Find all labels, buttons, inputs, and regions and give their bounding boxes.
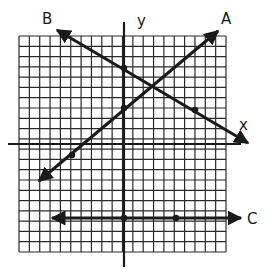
coordinate-graph: ABCxy — [0, 0, 273, 278]
x-axis-label: x — [239, 116, 248, 134]
y-axis-label: y — [137, 12, 146, 30]
line-label-b: B — [42, 10, 52, 28]
line-label-c: C — [247, 210, 257, 228]
point-on-line-c — [173, 215, 179, 221]
point-on-line-a — [69, 152, 75, 158]
point-on-line-c — [121, 215, 127, 221]
line-label-a: A — [221, 10, 232, 28]
point-on-line-b — [192, 107, 198, 113]
point-on-line-b — [121, 65, 127, 71]
labels: ABCxy — [42, 10, 257, 228]
line-a — [39, 31, 218, 181]
axes — [8, 22, 241, 267]
point-on-line-a — [121, 105, 127, 111]
line-b — [57, 30, 248, 143]
